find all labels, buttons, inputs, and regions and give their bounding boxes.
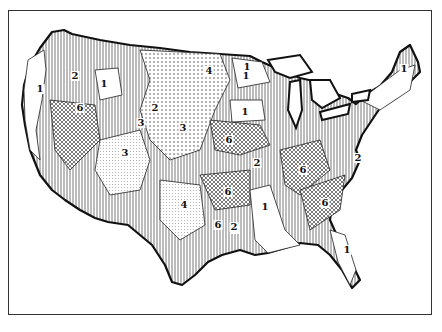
region-label: 1 [100,79,109,89]
region-label: 3 [137,118,146,128]
region-label: 2 [230,222,239,232]
region-label: 1 [242,71,251,81]
region-label: 2 [71,71,80,81]
us-map [0,0,442,332]
region-label: 4 [205,66,214,76]
region-label: 2 [354,153,363,163]
region-label: 6 [299,165,308,175]
region-label: 1 [343,245,352,255]
region-label: 1 [36,84,45,94]
region-label: 2 [151,103,160,113]
region-label: 6 [76,103,85,113]
region-label: 6 [224,187,233,197]
region-label: 1 [241,107,250,117]
region-label: 6 [225,135,234,145]
region-label: 1 [400,64,409,74]
region-label: 3 [179,123,188,133]
region-label: 6 [214,220,223,230]
region-label: 3 [121,148,130,158]
region-label: 6 [321,198,330,208]
region-label: 4 [180,200,189,210]
region-label: 1 [261,202,270,212]
region-label: 2 [253,158,262,168]
